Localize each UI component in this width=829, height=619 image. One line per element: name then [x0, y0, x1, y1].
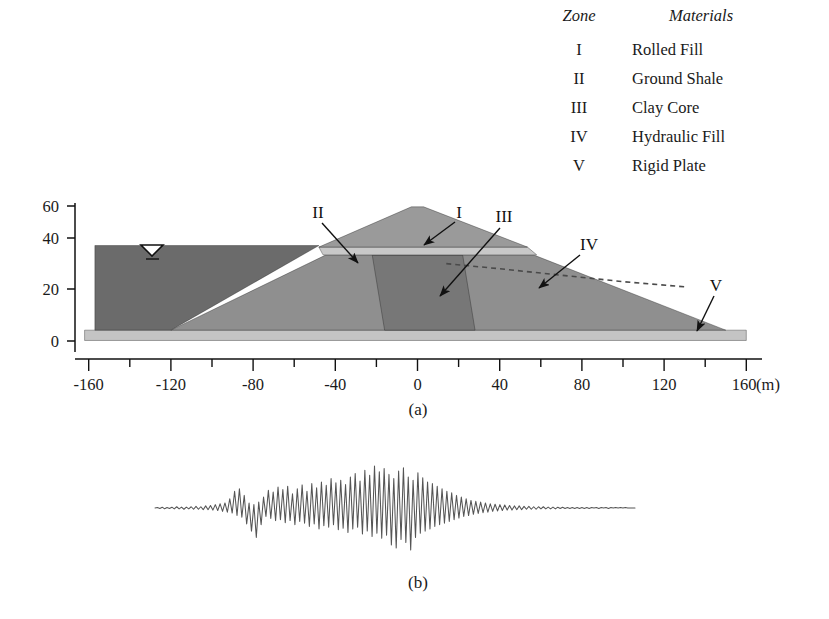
- zone-label-iii: III: [496, 207, 513, 226]
- x-axis-ticks: [89, 359, 747, 371]
- legend-zone-iii: III: [542, 93, 616, 122]
- panel-a-caption: (a): [378, 400, 458, 420]
- x-tick-neg80: -80: [242, 375, 264, 394]
- legend-row: IIIClay Core: [542, 93, 786, 122]
- legend-material-iv: Hydraulic Fill: [616, 122, 786, 151]
- x-axis-unit: (m): [756, 375, 780, 394]
- x-tick-80: 80: [574, 375, 591, 394]
- legend-material-v: Rigid Plate: [616, 151, 786, 180]
- x-tick-neg160: -160: [74, 375, 104, 394]
- legend-material-i: Rolled Fill: [616, 35, 786, 64]
- y-tick-40: 40: [43, 229, 60, 248]
- y-tick-20: 20: [43, 280, 60, 299]
- x-tick-0: 0: [413, 375, 421, 394]
- zone-label-i: I: [456, 203, 462, 222]
- y-tick-60: 60: [43, 197, 60, 216]
- legend-header-zone: Zone: [542, 6, 616, 35]
- cross-section-panel: 0 20 40 60: [43, 197, 780, 394]
- legend-material-ii: Ground Shale: [616, 64, 786, 93]
- cross-section-geometry: [85, 207, 747, 341]
- x-tick-160: 160: [732, 375, 757, 394]
- legend-zone-v: V: [542, 151, 616, 180]
- x-tick-neg120: -120: [156, 375, 186, 394]
- zone-iii-clay-core: [372, 255, 475, 330]
- zone-v-rigid-plate: [85, 330, 747, 340]
- y-tick-0: 0: [51, 332, 59, 351]
- legend-row: IIGround Shale: [542, 64, 786, 93]
- zone-label-v: V: [710, 276, 723, 295]
- zone-ii-ground-shale: [319, 247, 537, 255]
- x-tick-120: 120: [652, 375, 677, 394]
- panel-b-caption: (b): [378, 573, 458, 593]
- zone-label-ii: II: [312, 203, 324, 222]
- accelerogram-panel: [155, 466, 635, 550]
- figure-root: 0 20 40 60: [0, 0, 829, 619]
- x-tick-neg40: -40: [324, 375, 346, 394]
- legend-zone-ii: II: [542, 64, 616, 93]
- materials-legend: Zone Materials IRolled FillIIGround Shal…: [542, 6, 829, 180]
- x-axis: -160 -120 -80 -40 0 40 80 120 160 (m): [74, 359, 780, 394]
- legend-header-row: Zone Materials: [542, 6, 786, 35]
- accelerogram-trace: [155, 466, 635, 550]
- y-axis: 0 20 40 60: [43, 197, 76, 352]
- legend-row: IRolled Fill: [542, 35, 786, 64]
- x-tick-40: 40: [491, 375, 508, 394]
- legend-table: Zone Materials IRolled FillIIGround Shal…: [542, 6, 786, 180]
- legend-zone-iv: IV: [542, 122, 616, 151]
- legend-row: VRigid Plate: [542, 151, 786, 180]
- legend-header-materials: Materials: [616, 6, 786, 35]
- legend-material-iii: Clay Core: [616, 93, 786, 122]
- legend-body: IRolled FillIIGround ShaleIIIClay CoreIV…: [542, 35, 786, 180]
- zone-label-iv: IV: [580, 235, 599, 254]
- legend-zone-i: I: [542, 35, 616, 64]
- legend-row: IVHydraulic Fill: [542, 122, 786, 151]
